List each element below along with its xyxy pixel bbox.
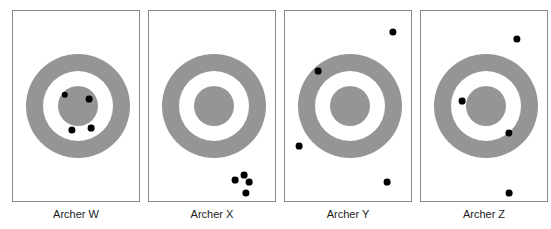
shot-marker xyxy=(506,190,513,197)
target-panel-archer-y xyxy=(284,10,412,202)
shot-marker xyxy=(315,68,322,75)
shot-marker xyxy=(246,179,253,186)
target-panel-archer-x xyxy=(148,10,276,202)
panel-label-archer-w: Archer W xyxy=(12,208,140,220)
target-area xyxy=(149,11,275,201)
shot-marker xyxy=(384,179,391,186)
target-area xyxy=(421,11,547,201)
panel-label-archer-z: Archer Z xyxy=(420,208,548,220)
panel-label-archer-x: Archer X xyxy=(148,208,276,220)
shot-marker xyxy=(86,96,93,103)
target-ring-inner xyxy=(466,86,506,126)
shot-marker xyxy=(296,143,303,150)
shot-marker xyxy=(88,125,95,132)
target-panel-archer-w xyxy=(12,10,140,202)
archery-target-figure: Archer W Archer X Archer Y xyxy=(0,0,551,229)
target-ring-inner xyxy=(194,86,234,126)
shot-marker xyxy=(242,189,249,196)
shot-marker xyxy=(459,98,466,105)
shot-marker xyxy=(241,172,248,179)
target-area xyxy=(13,11,139,201)
panel-label-archer-y: Archer Y xyxy=(284,208,412,220)
target-area xyxy=(285,11,411,201)
target-ring-inner xyxy=(330,86,370,126)
shot-marker xyxy=(389,28,396,35)
shot-marker xyxy=(232,177,239,184)
target-panel-archer-z xyxy=(420,10,548,202)
shot-marker xyxy=(513,35,520,42)
